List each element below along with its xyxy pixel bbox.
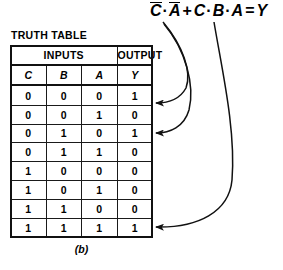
boolean-equation: C·A+C·B·A=Y: [150, 2, 267, 20]
column-header-b: B: [46, 65, 82, 85]
figure-caption: (b): [0, 243, 163, 255]
arrow-term2-to-row8: [156, 22, 233, 227]
column-header-y: Y: [117, 65, 153, 85]
arrow-term1-to-row1: [156, 22, 188, 103]
cell-b: 1: [46, 219, 82, 238]
truth-table-label: TRUTH TABLE: [11, 29, 87, 41]
cell-a: 0: [82, 85, 118, 105]
table-row: 1 0 0 0: [11, 162, 153, 181]
column-header-c: C: [11, 65, 47, 85]
cell-a: 0: [82, 162, 118, 181]
table-row: 1 0 1 0: [11, 181, 153, 200]
table-row: 0 1 1 0: [11, 143, 153, 162]
cell-b: 1: [46, 200, 82, 219]
cell-y: 0: [117, 162, 153, 181]
arrow-term1-to-row3: [156, 24, 191, 133]
table-row: 1 1 0 0: [11, 200, 153, 219]
cell-b: 1: [46, 124, 82, 143]
column-header-a: A: [82, 65, 118, 85]
table-group-header-row: INPUTS OUTPUT: [11, 46, 153, 66]
equation-term2-operator-2: ·: [224, 2, 231, 19]
cell-c: 1: [11, 181, 47, 200]
group-header-inputs: INPUTS: [11, 46, 118, 66]
cell-y: 1: [117, 85, 153, 105]
cell-b: 0: [46, 105, 82, 124]
cell-c: 0: [11, 143, 47, 162]
cell-c: 0: [11, 124, 47, 143]
cell-c: 0: [11, 105, 47, 124]
truth-table-container: INPUTS OUTPUT C B A Y 0 0 0 1 0 0: [10, 45, 153, 238]
cell-a: 0: [82, 124, 118, 143]
cell-b: 0: [46, 85, 82, 105]
truth-table: INPUTS OUTPUT C B A Y 0 0 0 1 0 0: [10, 45, 153, 238]
equation-term1-var1-complement: C: [150, 2, 162, 19]
table-column-header-row: C B A Y: [11, 65, 153, 85]
cell-y: 0: [117, 143, 153, 162]
equation-term2-operator-1: ·: [205, 2, 212, 19]
cell-b: 1: [46, 143, 82, 162]
cell-y: 1: [117, 219, 153, 238]
truth-table-figure: C·A+C·B·A=Y TRUTH TABLE INPUTS OUTPUT C …: [0, 0, 283, 270]
cell-b: 0: [46, 162, 82, 181]
equation-term2-var2: B: [213, 2, 225, 20]
equation-term2-var3: A: [232, 2, 244, 20]
cell-y: 1: [117, 124, 153, 143]
cell-c: 1: [11, 200, 47, 219]
equation-term1-operator: ·: [162, 2, 169, 19]
cell-b: 0: [46, 181, 82, 200]
equation-term2-var1: C: [194, 2, 206, 20]
equation-plus-operator: +: [180, 2, 193, 19]
cell-y: 0: [117, 200, 153, 219]
cell-a: 0: [82, 200, 118, 219]
equation-equals-sign: =: [243, 2, 256, 19]
equation-result-var: Y: [256, 2, 267, 20]
cell-y: 0: [117, 181, 153, 200]
cell-a: 1: [82, 219, 118, 238]
truth-table-body: INPUTS OUTPUT C B A Y 0 0 0 1 0 0: [11, 46, 153, 238]
group-header-output: OUTPUT: [117, 46, 153, 66]
cell-y: 0: [117, 105, 153, 124]
equation-term1-var2-complement: A: [169, 2, 181, 19]
cell-c: 0: [11, 85, 47, 105]
cell-a: 1: [82, 143, 118, 162]
cell-a: 1: [82, 181, 118, 200]
cell-a: 1: [82, 105, 118, 124]
table-row: 0 0 1 0: [11, 105, 153, 124]
table-row: 0 1 0 1: [11, 124, 153, 143]
table-row: 0 0 0 1: [11, 85, 153, 105]
cell-c: 1: [11, 219, 47, 238]
table-row: 1 1 1 1: [11, 219, 153, 238]
cell-c: 1: [11, 162, 47, 181]
